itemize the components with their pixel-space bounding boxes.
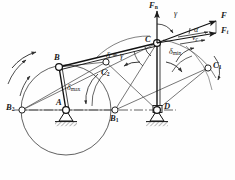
rocker-sweep-arrow bbox=[124, 62, 140, 66]
resultant-force-label: F bbox=[221, 11, 227, 20]
joint-label-B2: B2 bbox=[6, 103, 14, 113]
arc-delta-at-C-outer bbox=[134, 51, 143, 66]
joint-label-A: A bbox=[56, 98, 62, 107]
figure-canvas: B C A D B1 B2 C1 C2 δ = γ δmax δmin γ α … bbox=[0, 0, 235, 180]
joint-label-B1: B1 bbox=[110, 114, 118, 124]
joint-B2 bbox=[19, 107, 25, 113]
delta-min-label: δmin bbox=[169, 48, 181, 57]
transmission-angle-label: δ = γ bbox=[106, 51, 123, 60]
joint-label-C: C bbox=[145, 35, 151, 44]
force-vectors bbox=[157, 11, 216, 44]
joint-label-D: D bbox=[164, 102, 170, 111]
delta-max-label: δmax bbox=[67, 84, 80, 93]
crank-rotation-arrow-2 bbox=[8, 60, 26, 84]
joint-D bbox=[154, 107, 161, 114]
normal-force-label: Fn bbox=[149, 1, 158, 11]
joint-label-C1: C1 bbox=[213, 61, 221, 71]
link-B1-C1 bbox=[115, 68, 208, 110]
arc-delta-min-outer bbox=[172, 56, 192, 72]
arc-gamma bbox=[157, 24, 173, 33]
joint-label-B: B bbox=[54, 53, 60, 62]
crank-rotation-arrow bbox=[12, 52, 36, 68]
joint-C1 bbox=[205, 65, 211, 71]
mechanism-diagram bbox=[0, 0, 235, 180]
tangential-force-label: Ft bbox=[221, 26, 228, 36]
joint-A bbox=[63, 107, 70, 114]
crank-sweep-arrow-lower bbox=[20, 76, 30, 96]
rocker-sweep-arrow-2 bbox=[166, 62, 182, 72]
joint-B bbox=[56, 64, 63, 71]
joint-label-C2: C2 bbox=[101, 68, 109, 78]
force-Ft-vector bbox=[157, 33, 216, 43]
gamma-angle-label: γ bbox=[174, 10, 177, 18]
velocity-label: vc bbox=[192, 34, 198, 43]
